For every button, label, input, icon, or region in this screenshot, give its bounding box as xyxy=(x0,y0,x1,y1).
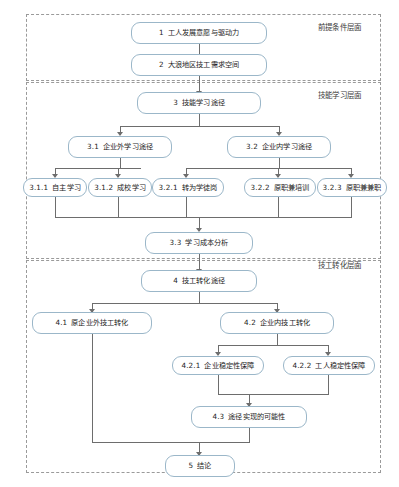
node-3-3-label: 学习成本分析 xyxy=(185,239,228,246)
node-1-label: 工人发展意愿与驱动力 xyxy=(168,29,240,36)
node-3-2-3-label: 原职兼兼职 xyxy=(346,184,382,191)
layer-learning-label: 技能学习层面 xyxy=(318,89,361,100)
node-3-1-2[interactable]: 3.1.2 成校学习 xyxy=(88,178,152,197)
node-3-2-1-number: 3.2.1 xyxy=(159,184,178,191)
node-4-2-label: 企业内技工转化 xyxy=(260,319,310,326)
node-3-2-number: 3.2 xyxy=(246,143,258,150)
node-3-2-3-number: 3.2.3 xyxy=(323,184,342,191)
node-4-label: 技工转化途径 xyxy=(182,277,225,284)
node-4-2-2-number: 4.2.2 xyxy=(292,362,311,369)
connector-n321-down xyxy=(186,197,187,217)
node-4-2-1-label: 企业稳定性保障 xyxy=(204,362,254,369)
node-3-2-2-label: 原职兼培训 xyxy=(274,184,310,191)
node-3-1-2-number: 3.1.2 xyxy=(94,184,113,191)
node-3-number: 3 xyxy=(173,99,178,106)
layer-premise-label: 前提条件层面 xyxy=(318,21,361,32)
node-3-label: 技能学习途径 xyxy=(182,99,225,106)
connector-bus-321-323 xyxy=(186,168,351,169)
node-3-2-2-number: 3.2.2 xyxy=(251,184,270,191)
node-3-1-number: 3.1 xyxy=(87,143,99,150)
node-3-2-label: 企业内学习途径 xyxy=(262,143,312,150)
node-4-2-2-label: 工人稳定性保障 xyxy=(315,362,365,369)
node-3[interactable]: 3 技能学习途径 xyxy=(137,92,261,114)
node-4-number: 4 xyxy=(173,277,178,284)
connector-n42-down xyxy=(277,334,278,345)
connector-n422-down xyxy=(328,375,329,394)
flowchart-canvas: 前提条件层面 技能学习层面 技工转化层面 xyxy=(0,0,399,487)
node-3-3[interactable]: 3.3 学习成本分析 xyxy=(145,232,253,254)
connector-bus-41-42 xyxy=(92,303,277,304)
node-2[interactable]: 2 大浪地区技工需求空间 xyxy=(131,54,267,76)
node-5[interactable]: 5 结论 xyxy=(165,455,235,477)
connector-n3-down xyxy=(199,114,200,126)
node-2-number: 2 xyxy=(159,61,164,68)
node-2-label: 大浪地区技工需求空间 xyxy=(168,61,240,68)
connector-n41-down xyxy=(92,334,93,442)
node-4-2-1-number: 4.2.1 xyxy=(181,362,200,369)
connector-n43-down xyxy=(249,428,250,442)
node-1[interactable]: 1 工人发展意愿与驱动力 xyxy=(131,22,267,44)
node-3-2[interactable]: 3.2 企业内学习途径 xyxy=(227,136,331,158)
connector-n31-down xyxy=(120,158,121,168)
node-3-1-label: 企业外学习途径 xyxy=(103,143,153,150)
node-4-3[interactable]: 4.3 途径实现的可能性 xyxy=(191,406,307,428)
connector-n421-down xyxy=(218,375,219,394)
connector-merge-bus-5 xyxy=(92,442,250,443)
node-1-number: 1 xyxy=(159,29,164,36)
node-5-label: 结论 xyxy=(197,462,211,469)
node-3-1-1[interactable]: 3.1.1 自主学习 xyxy=(23,178,87,197)
node-3-1-1-label: 自主学习 xyxy=(52,184,81,191)
connector-n4-down xyxy=(199,292,200,303)
node-4-2-1[interactable]: 4.2.1 企业稳定性保障 xyxy=(172,356,264,375)
node-3-1[interactable]: 3.1 企业外学习途径 xyxy=(68,136,172,158)
node-3-2-1[interactable]: 3.2.1 转为学徒岗 xyxy=(152,178,224,197)
node-3-3-number: 3.3 xyxy=(170,239,182,246)
connector-bus-31-32 xyxy=(120,126,279,127)
layer-convert-label: 技工转化层面 xyxy=(318,259,361,270)
node-4-2-number: 4.2 xyxy=(244,319,256,326)
connector-n322-down xyxy=(278,197,279,217)
node-3-2-2[interactable]: 3.2.2 原职兼培训 xyxy=(244,178,316,197)
node-3-1-2-label: 成校学习 xyxy=(117,184,146,191)
connector-n32-down xyxy=(279,158,280,168)
connector-bus-311-312 xyxy=(55,168,141,169)
node-3-2-1-label: 转为学徒岗 xyxy=(182,184,218,191)
node-4-3-label: 途径实现的可能性 xyxy=(228,413,285,420)
node-4-3-number: 4.3 xyxy=(212,413,224,420)
node-3-1-1-number: 3.1.1 xyxy=(29,184,48,191)
node-5-number: 5 xyxy=(188,462,193,469)
node-4[interactable]: 4 技工转化途径 xyxy=(141,270,257,292)
connector-merge-bus-33 xyxy=(55,217,352,218)
connector-n311-down xyxy=(55,197,56,217)
node-4-2[interactable]: 4.2 企业内技工转化 xyxy=(220,312,334,334)
node-4-1-number: 4.1 xyxy=(55,319,67,326)
node-4-1[interactable]: 4.1 原企业外技工转化 xyxy=(32,312,152,334)
connector-bus-421-422 xyxy=(218,345,328,346)
node-4-2-2[interactable]: 4.2.2 工人稳定性保障 xyxy=(283,356,375,375)
node-4-1-label: 原企业外技工转化 xyxy=(71,319,128,326)
connector-merge-bus-43 xyxy=(218,394,329,395)
connector-n312-down xyxy=(118,197,119,217)
connector-n323-down xyxy=(351,197,352,217)
node-3-2-3[interactable]: 3.2.3 原职兼兼职 xyxy=(317,178,387,197)
